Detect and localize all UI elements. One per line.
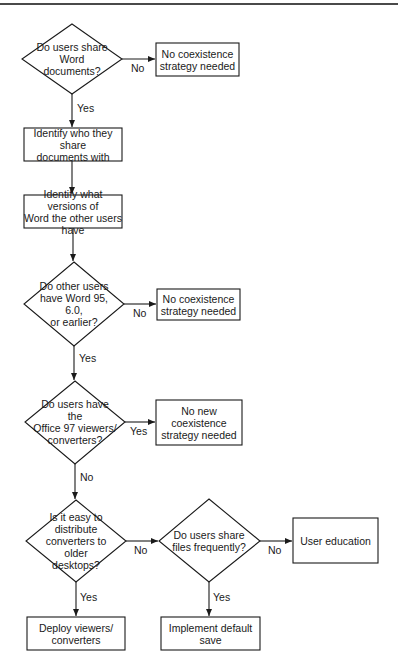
edge-label-distribute-no: No <box>134 544 147 556</box>
result-default-save-label: Implement default save <box>161 617 260 650</box>
edge-label-frequently-yes: Yes <box>213 591 230 603</box>
result-user-education-label: User education <box>293 518 378 563</box>
result-no-new-strategy-label: No new coexistence strategy needed <box>156 400 242 445</box>
result-no-strategy-2-label: No coexistence strategy needed <box>157 289 240 320</box>
decision-easy-distribute-label: Is it easy to distribute converters to o… <box>34 515 118 567</box>
step-identify-versions-label: Identify what versions of Word the other… <box>24 195 122 228</box>
edge-label-share-docs-yes: Yes <box>77 102 94 114</box>
result-deploy-label: Deploy viewers/ converters <box>27 617 125 650</box>
edge-label-older-no: No <box>133 307 146 319</box>
edge-label-viewers-yes: Yes <box>130 425 147 437</box>
decision-share-frequently-label: Do users share files frequently? <box>170 527 248 555</box>
edge-label-frequently-no: No <box>268 544 281 556</box>
edge-label-share-docs-no: No <box>131 62 144 74</box>
decision-share-docs-label: Do users share Word documents? <box>34 45 110 73</box>
edge-label-distribute-yes: Yes <box>80 591 97 603</box>
decision-older-versions-label: Do other users have Word 95, 6.0, or ear… <box>34 284 114 324</box>
edge-label-older-yes: Yes <box>79 352 96 364</box>
edge-label-viewers-no: No <box>80 471 93 483</box>
result-no-strategy-1-label: No coexistence strategy needed <box>156 43 239 76</box>
decision-viewers-label: Do users have the Office 97 viewers/ con… <box>33 402 117 442</box>
flowchart-canvas: Do users share Word documents? No coexis… <box>0 0 398 668</box>
step-identify-who-label: Identify who they share documents with <box>24 128 122 161</box>
